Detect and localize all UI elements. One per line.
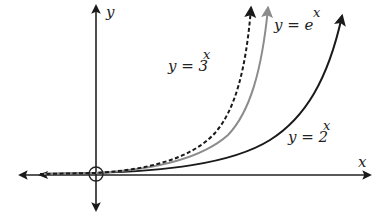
label-ex-exponent: x	[313, 5, 321, 20]
label-3x-base: y = 3	[167, 57, 208, 75]
y-axis-label: y	[105, 3, 115, 21]
label-2x: y = 2	[287, 128, 328, 146]
curve-ex	[40, 8, 268, 174]
label-ex-base: y = e	[273, 16, 314, 34]
curve-2x	[40, 16, 342, 174]
curve-3x	[40, 8, 251, 174]
exponential-graph: y x y = 3 x y = e x y = 2 x	[0, 0, 374, 214]
label-2x-base: y = 2	[287, 128, 328, 146]
label-3x: y = 3	[167, 57, 208, 75]
x-axis-label: x	[358, 153, 367, 171]
label-3x-exponent: x	[203, 47, 211, 62]
label-ex: y = e	[273, 16, 314, 34]
label-2x-exponent: x	[323, 118, 331, 133]
